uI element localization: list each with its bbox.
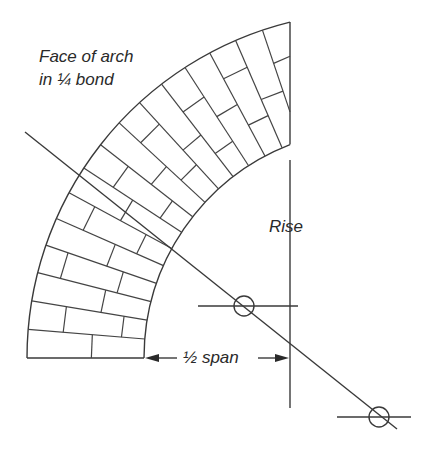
cross-joint: [83, 207, 95, 231]
cross-joint: [101, 290, 106, 312]
title-line-2: in ¼ bond: [39, 70, 114, 89]
cross-joint: [91, 335, 92, 358]
cross-joint: [137, 235, 146, 254]
rise-label: Rise: [269, 217, 303, 236]
cross-joint: [151, 167, 166, 185]
cross-joint: [217, 105, 238, 117]
cross-joint: [107, 244, 116, 266]
cross-joint: [181, 165, 196, 180]
cross-joint: [160, 201, 172, 218]
cross-joint: [121, 316, 124, 337]
axis-diagonal-line: [25, 132, 397, 429]
course-joint: [262, 30, 290, 112]
course-joint: [210, 53, 265, 156]
course-joint: [46, 245, 157, 283]
course-joint: [140, 103, 219, 189]
cross-joint: [183, 97, 204, 112]
course-joint: [84, 168, 182, 232]
course-joint: [38, 273, 151, 302]
half-span-label: ½ span: [183, 348, 239, 367]
title-line-1: Face of arch: [39, 47, 134, 66]
cross-joint: [60, 253, 68, 279]
course-joint: [69, 193, 172, 249]
cross-joint: [63, 307, 66, 333]
cross-joint: [248, 116, 268, 126]
arch-diagram: Face of arch in ¼ bond Rise ½ span: [0, 0, 438, 452]
cross-joint: [215, 141, 232, 153]
cross-joint: [183, 135, 201, 150]
arrowhead-right-icon: [275, 354, 289, 362]
course-joint: [28, 329, 145, 339]
course-joint: [119, 123, 205, 203]
cross-joint: [274, 56, 290, 63]
cross-joint: [224, 67, 248, 78]
arrowhead-left-icon: [145, 354, 159, 362]
course-joint: [101, 145, 193, 217]
cross-joint: [117, 272, 123, 293]
cross-joint: [141, 124, 160, 143]
course-joint: [162, 84, 233, 177]
cross-joint: [261, 91, 283, 99]
cross-joint: [113, 166, 128, 187]
course-joint: [32, 301, 147, 320]
